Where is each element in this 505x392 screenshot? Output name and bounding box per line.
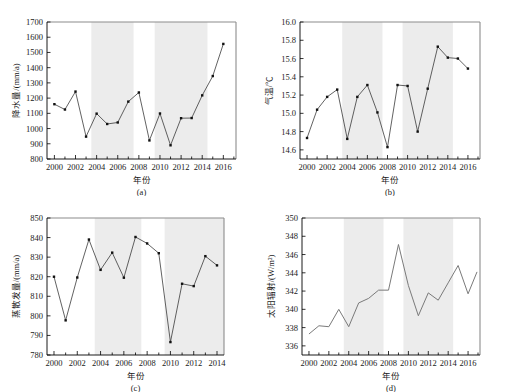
x-tick-label: 2010	[162, 358, 179, 368]
panel-a: 8009001000110012001300140015001600170020…	[0, 0, 252, 196]
data-point-marker	[134, 236, 136, 238]
data-point-marker	[447, 56, 449, 58]
shaded-band	[403, 22, 453, 159]
y-tick-label: 1600	[26, 32, 43, 42]
y-tick-label: 14.8	[281, 127, 296, 137]
x-tick-label: 2000	[45, 358, 62, 368]
y-tick-label: 342	[285, 286, 298, 296]
y-tick-label: 1500	[26, 47, 43, 57]
y-tick-label: 340	[285, 304, 298, 314]
y-tick-label: 840	[30, 233, 43, 243]
y-tick-label: 15.8	[281, 35, 296, 45]
data-point-marker	[148, 139, 150, 141]
data-point-marker	[216, 264, 218, 266]
data-point-marker	[117, 121, 119, 123]
x-axis-label: 年份	[381, 175, 399, 185]
data-point-marker	[88, 238, 90, 240]
y-tick-label: 1300	[26, 78, 43, 88]
plot-axes	[300, 22, 480, 159]
x-tick-label: 2004	[88, 162, 106, 172]
x-tick-label: 2014	[209, 358, 227, 368]
y-tick-label: 800	[30, 154, 43, 164]
data-point-marker	[346, 138, 348, 140]
data-point-marker	[158, 252, 160, 254]
data-point-marker	[306, 137, 308, 139]
data-point-marker	[416, 130, 418, 132]
data-point-marker	[356, 96, 358, 98]
data-point-marker	[190, 117, 192, 119]
data-point-marker	[396, 84, 398, 86]
data-point-marker	[336, 88, 338, 90]
x-tick-label: 2006	[360, 358, 377, 368]
data-point-marker	[204, 255, 206, 257]
panel-d-plot: 3363383403423443463483502000200220042006…	[252, 196, 505, 392]
data-point-marker	[159, 112, 161, 114]
data-point-marker	[406, 85, 408, 87]
data-point-marker	[53, 103, 55, 105]
y-tick-label: 800	[30, 311, 43, 321]
x-tick-label: 2002	[320, 358, 337, 368]
y-tick-label: 14.6	[281, 145, 296, 155]
y-tick-label: 336	[285, 341, 298, 351]
x-tick-label: 2010	[400, 358, 417, 368]
y-tick-label: 15.4	[281, 72, 297, 82]
plot-axes	[302, 218, 480, 355]
y-tick-label: 338	[285, 323, 298, 333]
x-tick-label: 2002	[67, 162, 84, 172]
data-point-marker	[53, 276, 55, 278]
x-tick-label: 2004	[340, 358, 358, 368]
shaded-band	[95, 218, 142, 355]
data-point-marker	[146, 242, 148, 244]
data-point-marker	[467, 67, 469, 69]
data-point-marker	[457, 57, 459, 59]
y-tick-label: 810	[30, 291, 43, 301]
panel-a-plot: 8009001000110012001300140015001600170020…	[0, 0, 252, 196]
y-tick-label: 830	[30, 252, 43, 262]
x-tick-label: 2006	[359, 162, 376, 172]
data-point-marker	[64, 319, 66, 321]
panel-c: 7807908008108208308408502000200220042006…	[0, 196, 252, 392]
y-axis-label: 太阳辐射/(W/m²)	[266, 255, 276, 319]
y-tick-label: 1700	[26, 17, 43, 27]
panel-caption: (d)	[386, 383, 396, 392]
panel-caption: (b)	[385, 187, 395, 196]
x-tick-label: 2010	[399, 162, 416, 172]
y-tick-label: 350	[285, 213, 298, 223]
data-point-marker	[111, 251, 113, 253]
y-axis-label: 气温/℃	[264, 76, 274, 105]
y-tick-label: 900	[30, 139, 43, 149]
shaded-band	[155, 22, 208, 159]
x-tick-label: 2014	[194, 162, 212, 172]
data-point-marker	[169, 341, 171, 343]
panel-b: 14.614.815.015.215.415.615.816.020002002…	[252, 0, 504, 196]
x-axis-label: 年份	[133, 175, 151, 185]
x-tick-label: 2000	[46, 162, 63, 172]
y-tick-label: 348	[285, 231, 298, 241]
x-tick-label: 2008	[380, 358, 397, 368]
data-point-marker	[326, 96, 328, 98]
y-tick-label: 15.0	[281, 108, 296, 118]
x-tick-label: 2008	[130, 162, 147, 172]
x-tick-label: 2006	[115, 358, 132, 368]
x-tick-label: 2014	[440, 358, 458, 368]
x-tick-label: 2000	[299, 162, 316, 172]
y-tick-label: 780	[30, 350, 43, 360]
y-tick-label: 1200	[26, 93, 43, 103]
panel-b-plot: 14.614.815.015.215.415.615.816.020002002…	[252, 0, 505, 196]
y-tick-label: 850	[30, 213, 43, 223]
y-tick-label: 15.2	[281, 90, 296, 100]
data-point-marker	[201, 94, 203, 96]
data-point-marker	[95, 112, 97, 114]
x-tick-label: 2012	[420, 358, 437, 368]
data-point-marker	[181, 283, 183, 285]
y-tick-label: 1100	[26, 108, 43, 118]
y-tick-label: 1400	[26, 63, 43, 73]
data-point-marker	[222, 43, 224, 45]
x-tick-label: 2008	[379, 162, 396, 172]
x-tick-label: 2002	[69, 358, 86, 368]
y-tick-label: 344	[285, 268, 299, 278]
y-tick-label: 1000	[26, 124, 43, 134]
data-point-marker	[437, 45, 439, 47]
x-tick-label: 2002	[319, 162, 336, 172]
shaded-band	[91, 22, 133, 159]
